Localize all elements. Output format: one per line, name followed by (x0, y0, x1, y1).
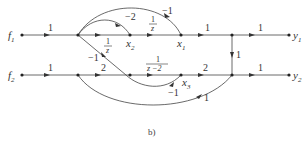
gain-f1-a: 1 (48, 22, 53, 33)
figure-caption: b) (148, 127, 156, 137)
label-f2: f2 (8, 69, 15, 84)
arrow-icon (249, 73, 255, 77)
arrow-icon (249, 33, 255, 37)
gain-x3-c-loop: −1 (168, 87, 179, 98)
arrow-icon (147, 33, 153, 37)
arrow-icon (95, 33, 101, 37)
gain-x2-a-loop: −2 (125, 11, 136, 22)
label-y2: y2 (292, 69, 302, 84)
label-x2: x2 (125, 37, 135, 52)
gain-c-x3: 1 z −2 (146, 55, 168, 73)
arrow-icon (198, 73, 204, 77)
label-x3: x3 (181, 76, 191, 91)
svg-text:1: 1 (151, 15, 155, 24)
svg-text:1: 1 (106, 37, 110, 46)
gain-f2-b: 1 (48, 62, 53, 73)
svg-text:1: 1 (156, 55, 160, 64)
arrow-icon (44, 33, 50, 37)
svg-text:z −2: z −2 (146, 64, 162, 73)
node-out2 (230, 73, 233, 76)
gain-b-out2: 1 (204, 92, 209, 103)
gain-out2-y2: 1 (258, 62, 263, 73)
svg-text:z: z (105, 46, 110, 55)
label-y1: y1 (292, 29, 301, 44)
gain-a-x3-cross: −1 (88, 52, 99, 63)
arrow-icon (230, 52, 234, 58)
node-b (76, 73, 79, 76)
label-x1: x1 (176, 37, 185, 52)
gain-vertical: 1 (236, 49, 241, 60)
signal-flow-graph: f1 f2 x2 x1 x3 y1 y2 1 1 1 −2 −1 1 z 1 z… (0, 0, 308, 148)
node-y1 (287, 33, 290, 36)
arrow-icon (95, 73, 101, 77)
gain-x3-out2: 2 (203, 62, 208, 73)
gain-out1-y1: 1 (258, 22, 263, 33)
arrow-icon (147, 73, 153, 77)
label-f1: f1 (8, 29, 15, 44)
node-f1 (20, 33, 23, 36)
node-a (76, 33, 79, 36)
svg-text:z: z (150, 24, 155, 33)
node-out1 (230, 33, 233, 36)
gain-x2-x1: 1 z (149, 15, 157, 33)
arrow-icon (44, 73, 50, 77)
arrow-icon (198, 33, 204, 37)
gain-b-c: 2 (101, 62, 106, 73)
gain-x1-out1: 1 (205, 22, 210, 33)
arrow-icon (115, 23, 121, 27)
gain-a-x2: 1 z (104, 37, 112, 55)
node-y2 (287, 73, 290, 76)
node-f2 (20, 73, 23, 76)
edge-x2-a-loop (78, 20, 130, 35)
gain-x1-a-loop: −1 (162, 5, 173, 16)
node-c (128, 73, 131, 76)
